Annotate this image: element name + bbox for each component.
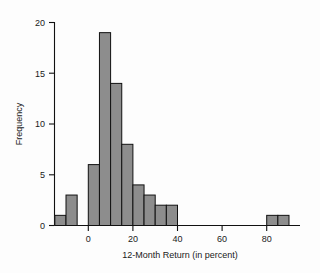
histogram-bar [88, 165, 99, 226]
histogram-bar [155, 205, 166, 225]
histogram-bar [122, 144, 133, 225]
x-tick-label-20: 20 [128, 234, 138, 244]
histogram-bar [278, 215, 289, 225]
histogram-bar [133, 185, 144, 226]
chart-background [0, 0, 320, 273]
histogram-bar [66, 195, 77, 225]
chart-canvas: 0 5 10 15 20 0 20 40 60 80 12-Month Retu… [0, 0, 320, 273]
histogram-bar [55, 215, 66, 225]
histogram-bar [99, 33, 110, 226]
y-tick-label-0: 0 [40, 221, 45, 231]
histogram-bar [267, 215, 278, 225]
y-tick-label-5: 5 [40, 170, 45, 180]
histogram-bar [166, 205, 177, 225]
x-axis-title: 12-Month Return (in percent) [122, 250, 238, 260]
histogram-bar [111, 83, 122, 225]
y-tick-label-10: 10 [35, 119, 45, 129]
x-tick-label-0: 0 [86, 234, 91, 244]
y-tick-label-20: 20 [35, 18, 45, 28]
histogram-figure: 0 5 10 15 20 0 20 40 60 80 12-Month Retu… [0, 0, 320, 273]
histogram-bar [144, 195, 155, 225]
x-tick-label-80: 80 [262, 234, 272, 244]
y-tick-label-15: 15 [35, 69, 45, 79]
x-tick-label-60: 60 [217, 234, 227, 244]
x-tick-label-40: 40 [172, 234, 182, 244]
y-axis-title: Frequency [14, 102, 24, 145]
